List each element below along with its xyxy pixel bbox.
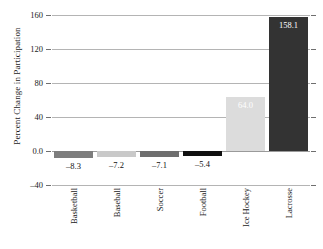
y-tick-label: 120 [30,44,43,54]
y-tick-mark [46,83,51,84]
bar-slot: –8.3 [52,15,95,185]
y-tick-mark [46,151,51,152]
x-label-slot: Soccer [138,186,181,248]
x-label-slot: Lacrosse [267,186,310,248]
x-label-slot: Football [181,186,224,248]
y-tick-mark [46,15,51,16]
bar-chart: Percent Change in Participation 16012080… [0,0,323,249]
bar-slot: 64.0 [224,15,267,185]
y-tick-label: 160 [30,10,43,20]
y-tick-mark [311,185,316,186]
bar[interactable] [269,17,309,151]
bar-slot: –7.2 [95,15,138,185]
bar[interactable] [97,151,137,157]
bar-value-label: –7.1 [138,160,181,170]
bars-group: –8.3–7.2–7.1–5.464.0158.1 [52,15,310,185]
y-tick-mark [311,117,316,118]
plot-area: 16012080400.0–40 –8.3–7.2–7.1–5.464.0158… [52,15,310,185]
y-tick-label: 0.0 [32,146,43,156]
bar-value-label: 158.1 [267,20,310,30]
bar-value-label: 64.0 [224,100,267,110]
x-tick-label: Baseball [112,188,122,217]
y-tick-mark [46,49,51,50]
x-tick-label: Football [198,188,208,216]
y-tick-mark [311,151,316,152]
y-tick-label: 40 [35,112,44,122]
y-tick-label: –40 [30,180,43,190]
x-tick-label: Lacrosse [284,188,294,218]
bar-slot: –5.4 [181,15,224,185]
y-tick-label: 80 [35,78,44,88]
bar-value-label: –5.4 [181,159,224,169]
bar[interactable] [54,151,94,158]
bar[interactable] [140,151,180,157]
x-axis-labels: BasketballBaseballSoccerFootballIce Hock… [52,186,310,248]
bar-value-label: –8.3 [52,161,95,171]
y-axis-title: Percent Change in Participation [12,6,22,166]
x-tick-label: Ice Hockey [241,188,251,227]
y-tick-mark [311,15,316,16]
bar-slot: –7.1 [138,15,181,185]
bar-value-label: –7.2 [95,160,138,170]
x-label-slot: Ice Hockey [224,186,267,248]
y-tick-mark [46,185,51,186]
y-tick-mark [311,83,316,84]
bar-slot: 158.1 [267,15,310,185]
y-tick-mark [311,49,316,50]
x-label-slot: Baseball [95,186,138,248]
bar[interactable] [183,151,223,156]
x-tick-label: Soccer [155,188,165,211]
x-tick-label: Basketball [69,188,79,224]
y-tick-mark [46,117,51,118]
x-label-slot: Basketball [52,186,95,248]
